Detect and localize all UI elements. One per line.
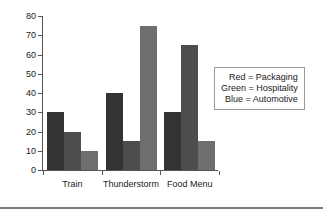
y-tick-label: 60 <box>26 50 36 59</box>
bar <box>181 45 198 170</box>
y-axis-line <box>42 16 43 171</box>
plot-area: 01020304050607080 TrainThunderstormFood … <box>42 16 218 171</box>
bar <box>47 112 64 170</box>
legend-entry: Blue = Automotive <box>221 94 298 105</box>
y-tick-mark <box>38 55 42 56</box>
x-tick-mark <box>160 171 161 175</box>
bar <box>140 26 157 170</box>
bar <box>64 132 81 171</box>
y-tick-mark <box>38 93 42 94</box>
bottom-divider <box>0 207 323 209</box>
y-tick-label: 70 <box>26 31 36 40</box>
y-tick-label: 40 <box>26 89 36 98</box>
category-label: Thunderstorm <box>103 179 159 189</box>
y-tick-mark <box>38 16 42 17</box>
bar <box>123 141 140 170</box>
y-tick-label: 10 <box>26 146 36 155</box>
y-tick-mark <box>38 112 42 113</box>
bar <box>198 141 215 170</box>
x-tick-mark <box>219 171 220 175</box>
y-tick-label: 0 <box>31 166 36 175</box>
legend-box: Red = Packaging Green = Hospitality Blue… <box>214 67 305 110</box>
y-tick-mark <box>38 35 42 36</box>
bar <box>164 112 181 170</box>
category-label: Train <box>62 179 82 189</box>
category-label: Food Menu <box>167 179 213 189</box>
x-tick-mark <box>102 171 103 175</box>
y-tick-label: 20 <box>26 127 36 136</box>
legend-entry: Green = Hospitality <box>221 83 298 94</box>
x-axis-line <box>42 170 218 171</box>
bar <box>81 151 98 170</box>
x-tick-mark <box>43 171 44 175</box>
y-tick-mark <box>38 132 42 133</box>
y-tick-label: 30 <box>26 108 36 117</box>
y-tick-mark <box>38 170 42 171</box>
y-tick-mark <box>38 151 42 152</box>
bar-chart-figure: 01020304050607080 TrainThunderstormFood … <box>0 0 323 215</box>
bar <box>106 93 123 170</box>
y-tick-label: 80 <box>26 12 36 21</box>
y-tick-mark <box>38 74 42 75</box>
y-tick-label: 50 <box>26 69 36 78</box>
legend-entry: Red = Packaging <box>221 72 298 83</box>
